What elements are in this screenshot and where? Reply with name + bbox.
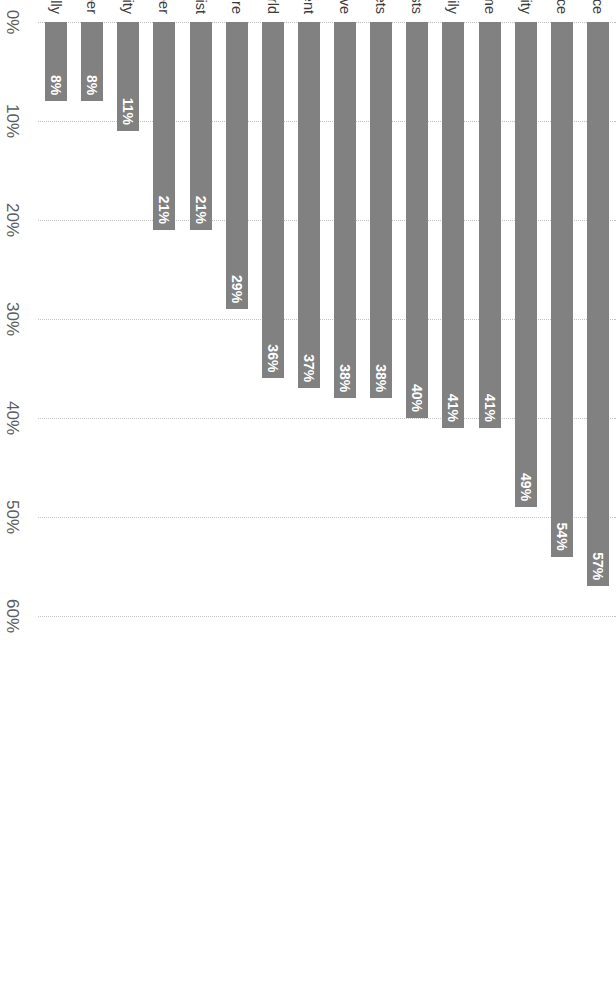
bar-value-label: 21%: [156, 196, 172, 224]
bar-value-label: 11%: [120, 98, 136, 125]
bar-value-label: 41%: [482, 394, 498, 422]
bar-value-label: 38%: [337, 364, 353, 392]
bar[interactable]: 37%: [298, 22, 320, 388]
bar[interactable]: 29%: [226, 22, 248, 309]
bar-value-label: 49%: [518, 473, 534, 501]
chart-figure: 0%10%20%30%40%50%60% Having the lifestyl…: [0, 0, 616, 981]
bar-value-label: 29%: [229, 275, 245, 303]
bar[interactable]: 41%: [479, 22, 501, 428]
bar-value-label: 57%: [590, 552, 606, 580]
bar-value-label: 8%: [84, 75, 100, 95]
bar[interactable]: 21%: [153, 22, 175, 230]
bar[interactable]: 11%: [117, 22, 139, 131]
bar[interactable]: 8%: [81, 22, 103, 101]
bar[interactable]: 36%: [262, 22, 284, 378]
bar[interactable]: 38%: [370, 22, 392, 398]
bar[interactable]: 40%: [406, 22, 428, 418]
bar[interactable]: 38%: [334, 22, 356, 398]
bar[interactable]: 49%: [515, 22, 537, 507]
bar-value-label: 37%: [301, 354, 317, 382]
bar[interactable]: 21%: [190, 22, 212, 230]
rotated-chart-canvas: 0%10%20%30%40%50%60% Having the lifestyl…: [0, 0, 616, 981]
bar-value-label: 54%: [554, 523, 570, 551]
bar[interactable]: 54%: [551, 22, 573, 557]
bar[interactable]: 57%: [587, 22, 609, 586]
bar[interactable]: 41%: [442, 22, 464, 428]
bars-layer: 57%54%49%41%41%40%38%38%37%36%29%21%21%1…: [0, 0, 616, 981]
bar-value-label: 8%: [48, 75, 64, 95]
bar-value-label: 41%: [445, 394, 461, 422]
bar-value-label: 38%: [373, 364, 389, 392]
bar-value-label: 21%: [193, 196, 209, 224]
bar-value-label: 36%: [265, 344, 281, 372]
bar-value-label: 40%: [409, 384, 425, 412]
plot-region: 0%10%20%30%40%50%60% Having the lifestyl…: [0, 0, 616, 981]
bar[interactable]: 8%: [45, 22, 67, 101]
